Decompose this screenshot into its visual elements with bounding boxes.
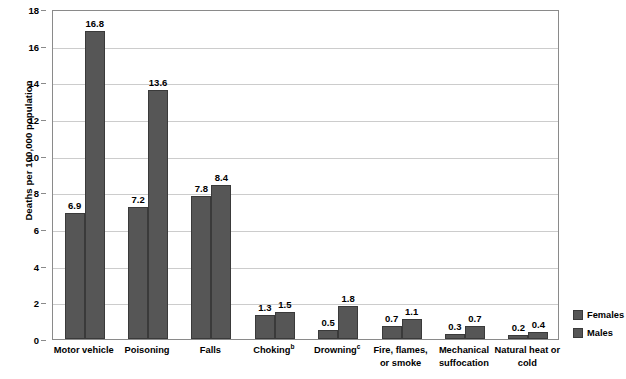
bar-group: 7.88.4 bbox=[191, 11, 231, 339]
y-tick-label: 2 bbox=[34, 298, 39, 309]
bar-females-5[interactable] bbox=[382, 326, 402, 339]
bar-females-4[interactable] bbox=[318, 330, 338, 339]
x-label-line: suffocation bbox=[439, 358, 489, 368]
y-tick-mark bbox=[41, 157, 46, 158]
y-tick-mark bbox=[41, 47, 46, 48]
bar-females-7[interactable] bbox=[508, 335, 528, 339]
bar-group: 1.31.5 bbox=[255, 11, 295, 339]
y-tick-label: 10 bbox=[28, 151, 39, 162]
y-tick-label: 8 bbox=[34, 188, 39, 199]
bar-value-label: 0.2 bbox=[512, 322, 525, 333]
y-tick-label: 0 bbox=[34, 335, 39, 346]
plot-area: 6.916.87.213.67.88.41.31.50.51.80.71.10.… bbox=[52, 10, 559, 340]
y-tick-label: 4 bbox=[34, 261, 39, 272]
bar-value-label: 0.3 bbox=[448, 321, 461, 332]
x-axis-category-labels: Motor vehiclePoisoningFallsChokingbDrown… bbox=[52, 344, 559, 378]
y-tick-mark bbox=[41, 267, 46, 268]
y-tick-label: 14 bbox=[28, 78, 39, 89]
bar-males-2[interactable] bbox=[211, 185, 231, 339]
bar-males-7[interactable] bbox=[528, 332, 548, 339]
bar-value-label: 7.2 bbox=[131, 194, 144, 205]
bar-value-label: 0.7 bbox=[468, 313, 481, 324]
legend-item-males[interactable]: Males bbox=[573, 325, 626, 340]
bar-females-1[interactable] bbox=[128, 207, 148, 339]
bar-males-4[interactable] bbox=[338, 306, 358, 339]
bar-value-label: 8.4 bbox=[215, 172, 228, 183]
bar-value-label: 7.8 bbox=[195, 183, 208, 194]
bar-group: 0.71.1 bbox=[382, 11, 422, 339]
x-axis-label-7: Natural heat orcold bbox=[490, 344, 565, 369]
x-label-footnote: c bbox=[357, 343, 361, 350]
y-tick-mark bbox=[41, 120, 46, 121]
x-label-line: Drowning bbox=[314, 345, 357, 355]
legend-label: Females bbox=[587, 310, 624, 320]
bar-males-3[interactable] bbox=[275, 312, 295, 340]
bar-females-0[interactable] bbox=[65, 213, 85, 340]
y-tick-mark bbox=[41, 193, 46, 194]
y-tick-label: 16 bbox=[28, 41, 39, 52]
bar-males-5[interactable] bbox=[402, 319, 422, 339]
legend: FemalesMales bbox=[573, 307, 626, 343]
x-label-line: Poisoning bbox=[125, 345, 170, 355]
x-label-line: cold bbox=[518, 358, 537, 368]
y-tick-mark bbox=[41, 10, 46, 11]
bar-value-label: 0.5 bbox=[322, 317, 335, 328]
bar-group: 6.916.8 bbox=[65, 11, 105, 339]
x-label-line: or smoke bbox=[380, 358, 421, 368]
bar-value-label: 0.7 bbox=[385, 313, 398, 324]
bar-group: 0.30.7 bbox=[445, 11, 485, 339]
y-tick-mark bbox=[41, 303, 46, 304]
bar-group: 0.51.8 bbox=[318, 11, 358, 339]
bar-value-label: 0.4 bbox=[532, 319, 545, 330]
bar-males-6[interactable] bbox=[465, 326, 485, 339]
y-tick-label: 18 bbox=[28, 5, 39, 16]
bar-value-label: 1.1 bbox=[405, 306, 418, 317]
x-label-line: Fire, flames, bbox=[373, 345, 427, 355]
y-tick-label: 12 bbox=[28, 115, 39, 126]
x-label-line: Motor vehicle bbox=[54, 345, 114, 355]
y-tick-mark bbox=[41, 230, 46, 231]
bar-value-label: 1.8 bbox=[342, 293, 355, 304]
bar-group: 7.213.6 bbox=[128, 11, 168, 339]
bars-layer: 6.916.87.213.67.88.41.31.50.51.80.71.10.… bbox=[53, 11, 558, 339]
bar-males-1[interactable] bbox=[148, 90, 168, 339]
legend-swatch-icon bbox=[573, 328, 583, 338]
legend-label: Males bbox=[587, 328, 613, 338]
x-label-footnote: b bbox=[290, 343, 294, 350]
chart-figure: Deaths per 100,000 population 0246810121… bbox=[0, 0, 626, 379]
bar-females-6[interactable] bbox=[445, 334, 465, 340]
y-tick-mark bbox=[41, 83, 46, 84]
bar-females-3[interactable] bbox=[255, 315, 275, 339]
legend-swatch-icon bbox=[573, 310, 583, 320]
legend-item-females[interactable]: Females bbox=[573, 307, 626, 322]
bar-value-label: 13.6 bbox=[149, 77, 168, 88]
y-tick-label: 6 bbox=[34, 225, 39, 236]
x-label-line: Choking bbox=[253, 345, 290, 355]
bar-females-2[interactable] bbox=[191, 196, 211, 339]
x-label-line: Falls bbox=[200, 345, 221, 355]
bar-value-label: 6.9 bbox=[68, 200, 81, 211]
bar-group: 0.20.4 bbox=[508, 11, 548, 339]
x-label-line: Natural heat or bbox=[495, 345, 561, 355]
bar-males-0[interactable] bbox=[85, 31, 105, 339]
y-axis-tick-labels: 024681012141618 bbox=[0, 10, 46, 340]
bar-value-label: 1.3 bbox=[258, 302, 271, 313]
bar-value-label: 16.8 bbox=[85, 18, 104, 29]
y-tick-mark bbox=[41, 340, 46, 341]
bar-value-label: 1.5 bbox=[278, 299, 291, 310]
x-label-line: Mechanical bbox=[439, 345, 489, 355]
